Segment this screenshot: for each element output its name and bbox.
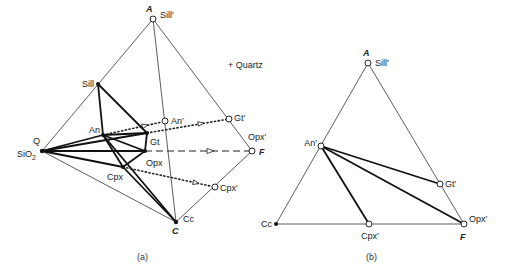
point-f <box>249 148 255 154</box>
point-gt-prime <box>437 181 443 187</box>
arrowhead-cpx <box>193 180 200 186</box>
point-sill-prime <box>150 16 156 22</box>
point-gt-prime <box>226 116 232 122</box>
label-cpx-prime: Cpx′ <box>220 183 238 193</box>
tie-gt-opx <box>145 133 147 151</box>
point-cc <box>174 220 178 224</box>
point-cpx-prime <box>366 221 372 227</box>
label-opx-prime: Opx′ <box>248 132 267 142</box>
caption-b: (b) <box>366 252 377 262</box>
label-sill-prime: Sill′ <box>375 58 389 68</box>
label-a-vertex: A <box>145 4 153 14</box>
projection-lines <box>103 120 249 187</box>
annotation-plus-quartz: + Quartz <box>228 60 263 70</box>
phase-points-b <box>274 60 467 227</box>
label-sio2: SiO2 <box>17 149 36 161</box>
label-f: F <box>259 147 265 157</box>
projection-gt-to-gt-prime <box>147 120 226 134</box>
tie-q-gt <box>42 133 147 151</box>
edge-a-f <box>368 63 464 224</box>
label-cc: Cc <box>183 214 194 224</box>
label-sio2-subscript: 2 <box>32 154 36 161</box>
tie-opx-cpx <box>123 151 145 167</box>
label-sill-prime: Sill′ <box>160 10 174 20</box>
point-cpx-prime <box>212 184 218 190</box>
arrowhead-opx <box>207 148 214 153</box>
label-opx: Opx <box>146 158 163 168</box>
point-cpx <box>121 165 125 169</box>
label-an: An <box>89 125 100 135</box>
point-f <box>461 221 467 227</box>
point-sill <box>96 82 100 86</box>
tie-sill-gt <box>98 84 147 133</box>
label-q: Q <box>33 136 40 146</box>
point-cc <box>274 222 278 226</box>
label-f: F <box>460 232 466 242</box>
tie-lines-a <box>42 84 176 222</box>
point-q <box>40 149 44 153</box>
label-a-vertex: A <box>362 48 370 58</box>
figure-b-triangle: A Sill′ An′ Gt′ Cc Cpx′ F Opx′ (b) <box>261 48 488 262</box>
caption-a: (a) <box>137 252 148 262</box>
label-gt-prime: Gt′ <box>445 179 457 189</box>
label-gt: Gt <box>150 137 160 147</box>
labels-b: A Sill′ An′ Gt′ Cc Cpx′ F Opx′ (b) <box>261 48 488 262</box>
label-sio2-main: SiO <box>17 149 32 159</box>
tie-an-prime-cpx-prime <box>321 146 369 224</box>
label-opx-prime: Opx′ <box>469 214 488 224</box>
point-an-prime <box>162 118 168 124</box>
label-c-vertex: C <box>172 226 179 236</box>
point-opx <box>143 149 147 153</box>
point-an <box>101 133 105 137</box>
tie-cpx-cc <box>123 167 176 222</box>
tie-q-cpx <box>42 151 123 167</box>
point-an-prime <box>318 143 324 149</box>
label-an-prime: An′ <box>304 138 317 148</box>
label-cpx-prime: Cpx′ <box>361 231 379 241</box>
diagram-canvas: A Sill′ Sill An An′ Gt Gt′ Q SiO2 Opx Op… <box>0 0 509 268</box>
label-an-prime: An′ <box>171 116 184 126</box>
label-gt-prime: Gt′ <box>234 113 246 123</box>
label-cpx: Cpx <box>107 172 124 182</box>
label-cc: Cc <box>261 219 272 229</box>
figure-a-tetrahedron: A Sill′ Sill An An′ Gt Gt′ Q SiO2 Opx Op… <box>17 4 267 262</box>
edge-a-f <box>153 19 252 151</box>
point-gt <box>145 131 149 135</box>
point-sill-prime <box>365 60 371 66</box>
arrowhead-gt <box>198 121 205 127</box>
label-sill: Sill <box>82 79 94 89</box>
